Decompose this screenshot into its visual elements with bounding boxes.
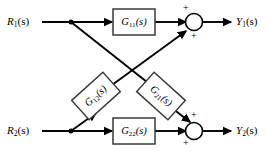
- input-r2-label: R2(s): [7, 125, 29, 136]
- output-y1-label: Y1(s): [236, 16, 257, 27]
- branch-point-r1: [69, 20, 74, 25]
- block-g11-label: G11(s): [117, 17, 151, 28]
- sign-plus-top-1: +: [183, 3, 189, 13]
- branch-point-r2: [69, 129, 74, 134]
- sign-plus-bottom-1: +: [191, 31, 197, 41]
- sign-plus-bottom-2: +: [183, 138, 189, 148]
- block-diagram-canvas: R1(s) R2(s) Y1(s) Y2(s) G11(s) G22(s) G1…: [0, 0, 266, 159]
- sign-plus-top-2: +: [191, 110, 197, 120]
- summing-junction-1-circle: [186, 14, 203, 31]
- block-g22-label: G22(s): [117, 126, 151, 137]
- output-y2-label: Y2(s): [236, 125, 257, 136]
- input-r1-label: R1(s): [7, 16, 29, 27]
